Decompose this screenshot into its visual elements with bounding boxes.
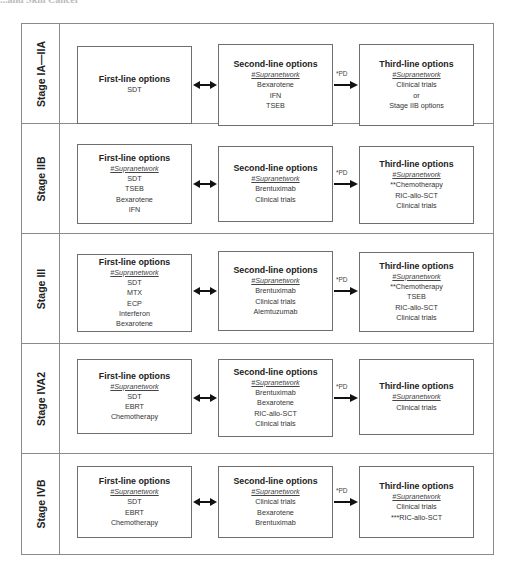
treatment-option: SDT — [127, 174, 141, 184]
right-arrow-icon — [334, 81, 358, 89]
treatment-option: Clinical trials — [396, 502, 436, 512]
treatment-option: Brentuximab — [255, 286, 295, 296]
double-headed-arrow-icon — [193, 180, 217, 188]
treatment-option: Bexarotene — [116, 319, 153, 329]
first-line-options-box: First-line options#SupranetworkSDTMTXECP… — [77, 254, 192, 332]
second-line-options-box: Second-line options#SupranetworkBexarote… — [218, 44, 333, 126]
treatment-option: ***RIC-allo-SCT — [391, 513, 442, 523]
treatment-option: EBRT — [125, 508, 144, 518]
third-line-title: Third-line options — [379, 159, 453, 170]
supranetwork-link: #Supranetwork — [110, 382, 158, 392]
treatment-option: SDT — [127, 497, 141, 507]
treatment-option: IFN — [270, 91, 282, 101]
second-line-title: Second-line options — [233, 476, 317, 487]
double-headed-arrow-icon — [193, 287, 217, 295]
treatment-option: Stage IIB options — [389, 101, 444, 111]
first-line-title: First-line options — [99, 153, 170, 164]
third-line-options-box: Third-line options#SupranetworkClinical … — [359, 466, 474, 538]
first-line-title: First-line options — [99, 371, 170, 382]
treatment-option: RIC-allo-SCT — [395, 303, 438, 313]
progressive-disease-label: *PD — [336, 70, 348, 77]
stage-label-cell: Stage IVB — [22, 454, 60, 554]
supranetwork-link: #Supranetwork — [251, 174, 299, 184]
treatment-option: Clinical trials — [255, 195, 295, 205]
second-line-title: Second-line options — [233, 265, 317, 276]
supranetwork-link: #Supranetwork — [110, 164, 158, 174]
double-headed-arrow-icon — [193, 498, 217, 506]
treatment-option: Clinical trials — [255, 497, 295, 507]
treatment-option: TSEB — [266, 101, 285, 111]
treatment-option: Clinical trials — [396, 201, 436, 211]
treatment-option: Clinical trials — [255, 297, 295, 307]
right-arrow-icon — [334, 287, 358, 295]
right-arrow-icon — [334, 394, 358, 402]
right-arrow-icon — [334, 498, 358, 506]
supranetwork-link: #Supranetwork — [251, 70, 299, 80]
stage-row: Stage IVA2 First-line options#Supranetwo… — [22, 344, 493, 454]
stage-label: Stage IVB — [35, 479, 47, 528]
treatment-option: Clinical trials — [396, 313, 436, 323]
stage-label: Stage III — [35, 268, 47, 308]
third-line-title: Third-line options — [379, 59, 453, 70]
stage-row: Stage IA—IIA First-line optionsSDT Secon… — [22, 24, 493, 124]
treatment-option: **Chemotherapy — [390, 180, 443, 190]
treatment-option: TSEB — [125, 184, 144, 194]
third-line-title: Third-line options — [379, 261, 453, 272]
progressive-disease-label: *PD — [336, 169, 348, 176]
progressive-disease-label: *PD — [336, 383, 348, 390]
third-line-title: Third-line options — [379, 381, 453, 392]
stage-label: Stage IA—IIA — [35, 41, 47, 107]
second-line-title: Second-line options — [233, 367, 317, 378]
first-line-options-box: First-line options#SupranetworkSDTEBRTCh… — [77, 466, 192, 538]
treatment-flow-diagram: Stage IA—IIA First-line optionsSDT Secon… — [21, 23, 494, 555]
supranetwork-link: #Supranetwork — [392, 392, 440, 402]
treatment-option: RIC-allo-SCT — [395, 191, 438, 201]
stage-row: Stage III First-line options#Supranetwor… — [22, 234, 493, 344]
treatment-option: Clinical trials — [255, 419, 295, 429]
treatment-option: Brentuximab — [255, 388, 295, 398]
first-line-title: First-line options — [99, 257, 170, 268]
stage-label-cell: Stage III — [22, 234, 60, 343]
treatment-option: Clinical trials — [396, 403, 436, 413]
progressive-disease-label: *PD — [336, 487, 348, 494]
treatment-option: Alemtuzumab — [254, 307, 298, 317]
second-line-options-box: Second-line options#SupranetworkBrentuxi… — [218, 146, 333, 222]
double-headed-arrow-icon — [193, 81, 217, 89]
cut-off-heading: ...and Skin Cancer — [0, 0, 79, 5]
treatment-option: Chemotherapy — [111, 518, 158, 528]
treatment-option: RIC-allo-SCT — [254, 409, 297, 419]
stage-label: Stage IIB — [35, 156, 47, 201]
treatment-option: IFN — [129, 205, 141, 215]
treatment-option: Clinical trials — [396, 80, 436, 90]
third-line-options-box: Third-line options#Supranetwork**Chemoth… — [359, 252, 474, 332]
treatment-option: SDT — [127, 278, 141, 288]
stage-label: Stage IVA2 — [35, 371, 47, 425]
third-line-options-box: Third-line options#SupranetworkClinical … — [359, 44, 474, 126]
third-line-options-box: Third-line options#SupranetworkClinical … — [359, 359, 474, 435]
treatment-option: ECP — [127, 299, 142, 309]
second-line-options-box: Second-line options#SupranetworkBrentuxi… — [218, 359, 333, 437]
double-headed-arrow-icon — [193, 394, 217, 402]
third-line-title: Third-line options — [379, 481, 453, 492]
treatment-option: Brentuximab — [255, 518, 295, 528]
supranetwork-link: #Supranetwork — [392, 170, 440, 180]
third-line-options-box: Third-line options#Supranetwork**Chemoth… — [359, 146, 474, 224]
treatment-option: Brentuximab — [255, 184, 295, 194]
first-line-title: First-line options — [99, 476, 170, 487]
stage-label-cell: Stage IA—IIA — [22, 24, 60, 123]
treatment-option: SDT — [127, 392, 141, 402]
supranetwork-link: #Supranetwork — [251, 276, 299, 286]
treatment-option: Chemotherapy — [111, 412, 158, 422]
second-line-options-box: Second-line options#SupranetworkClinical… — [218, 466, 333, 538]
stage-label-cell: Stage IIB — [22, 124, 60, 233]
supranetwork-link: #Supranetwork — [392, 70, 440, 80]
treatment-option: Bexarotene — [257, 80, 294, 90]
treatment-option: Bexarotene — [257, 508, 294, 518]
stage-row: Stage IVB First-line options#Supranetwor… — [22, 454, 493, 554]
treatment-option: or — [413, 91, 419, 101]
treatment-option: Bexarotene — [116, 195, 153, 205]
supranetwork-link: #Supranetwork — [251, 378, 299, 388]
treatment-option: EBRT — [125, 402, 144, 412]
second-line-title: Second-line options — [233, 163, 317, 174]
supranetwork-link: #Supranetwork — [110, 487, 158, 497]
